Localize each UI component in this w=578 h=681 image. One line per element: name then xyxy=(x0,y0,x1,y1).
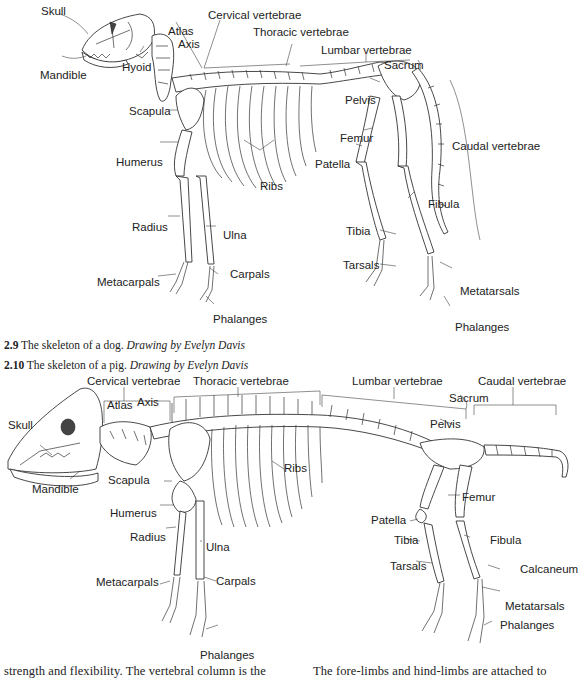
label-femur: Femur xyxy=(462,492,495,504)
label-cervical-vertebrae: Cervical vertebrae xyxy=(87,376,180,388)
label-metacarpals: Metacarpals xyxy=(97,277,160,289)
label-phalanges-fore: Phalanges xyxy=(200,650,254,662)
label-fibula: Fibula xyxy=(490,535,521,547)
caption-text: The skeleton of a dog. xyxy=(21,339,124,351)
caption-credit: Drawing by Evelyn Davis xyxy=(126,339,245,351)
label-tibia: Tibia xyxy=(346,226,371,238)
label-sacrum: Sacrum xyxy=(449,393,489,405)
label-atlas: Atlas xyxy=(107,400,133,412)
label-patella: Patella xyxy=(315,159,350,171)
label-axis: Axis xyxy=(137,397,159,409)
label-tarsals: Tarsals xyxy=(390,561,426,573)
label-tarsals: Tarsals xyxy=(343,260,379,272)
label-axis: Axis xyxy=(178,39,200,51)
label-thoracic-vertebrae: Thoracic vertebrae xyxy=(253,27,349,39)
label-phalanges-hind: Phalanges xyxy=(455,322,509,334)
label-tibia: Tibia xyxy=(394,535,419,547)
label-ulna: Ulna xyxy=(206,542,230,554)
body-text-left-column: strength and flexibility. The vertebral … xyxy=(4,664,266,679)
label-cervical-vertebrae: Cervical vertebrae xyxy=(208,10,301,22)
label-femur: Femur xyxy=(340,133,373,145)
label-scapula: Scapula xyxy=(129,106,171,118)
label-phalanges-hind: Phalanges xyxy=(500,620,554,632)
label-skull: Skull xyxy=(8,420,33,432)
label-mandible: Mandible xyxy=(40,70,87,82)
label-phalanges-fore: Phalanges xyxy=(213,314,267,326)
label-metacarpals: Metacarpals xyxy=(96,577,159,589)
body-text-right-column: The fore-limbs and hind-limbs are attach… xyxy=(313,664,547,679)
label-humerus: Humerus xyxy=(110,508,157,520)
label-radius: Radius xyxy=(130,532,166,544)
pig-skeleton-figure: Cervical vertebrae Thoracic vertebrae Lu… xyxy=(0,365,577,665)
pig-skeleton-drawing xyxy=(0,365,577,665)
label-caudal-vertebrae: Caudal vertebrae xyxy=(478,376,566,388)
label-scapula: Scapula xyxy=(108,475,150,487)
label-calcaneum: Calcaneum xyxy=(520,564,578,576)
label-hyoid: Hyoid xyxy=(122,62,151,74)
label-metatarsals: Metatarsals xyxy=(460,286,519,298)
label-atlas: Atlas xyxy=(168,26,194,38)
label-pelvis: Pelvis xyxy=(430,419,461,431)
dog-skeleton-figure: Skull Cervical vertebrae Atlas Thoracic … xyxy=(0,0,577,330)
label-lumbar-vertebrae: Lumbar vertebrae xyxy=(352,376,443,388)
dog-skeleton-drawing xyxy=(0,0,577,330)
label-radius: Radius xyxy=(132,222,168,234)
label-ribs: Ribs xyxy=(260,181,283,193)
label-sacrum: Sacrum xyxy=(384,60,424,72)
label-carpals: Carpals xyxy=(216,576,256,588)
figure-number: 2.9 xyxy=(4,339,18,351)
caption-figure-2-9: 2.9 The skeleton of a dog. Drawing by Ev… xyxy=(4,339,245,351)
label-fibula: Fibula xyxy=(428,199,459,211)
label-caudal-vertebrae: Caudal vertebrae xyxy=(452,141,540,153)
label-ribs: Ribs xyxy=(284,463,307,475)
label-thoracic-vertebrae: Thoracic vertebrae xyxy=(193,376,289,388)
label-ulna: Ulna xyxy=(223,230,247,242)
label-humerus: Humerus xyxy=(116,157,163,169)
label-pelvis: Pelvis xyxy=(345,95,376,107)
label-lumbar-vertebrae: Lumbar vertebrae xyxy=(321,45,412,57)
label-patella: Patella xyxy=(371,515,406,527)
label-carpals: Carpals xyxy=(230,269,270,281)
label-skull: Skull xyxy=(41,6,66,18)
label-mandible: Mandible xyxy=(32,484,79,496)
label-metatarsals: Metatarsals xyxy=(505,601,564,613)
